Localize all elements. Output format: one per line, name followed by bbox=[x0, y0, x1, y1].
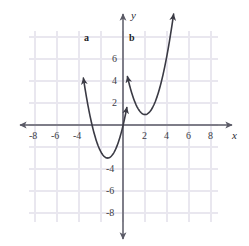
parabola-a-right-branch bbox=[108, 107, 127, 158]
x-axis-name: x bbox=[232, 130, 237, 141]
y-tick-label-pos6: 6 bbox=[112, 54, 117, 64]
y-tick-label-neg4: -4 bbox=[106, 164, 114, 174]
x-tick-label-neg8: -8 bbox=[29, 131, 37, 141]
x-tick-label-pos8: 8 bbox=[208, 131, 213, 141]
parabola-a bbox=[83, 78, 107, 158]
y-tick-label-neg8: -8 bbox=[106, 208, 114, 218]
y-tick-label-pos2: 2 bbox=[112, 98, 117, 108]
y-tick-label-neg6: -6 bbox=[106, 186, 114, 196]
x-tick-label-pos6: 6 bbox=[186, 131, 191, 141]
axes bbox=[20, 14, 232, 239]
graph-figure: -8 -6 -4 2 4 6 8 6 4 2 -4 -6 -8 x y a b bbox=[0, 0, 249, 246]
curve-label-b: b bbox=[129, 33, 135, 43]
parabola-b bbox=[127, 77, 145, 115]
y-tick-label-pos4: 4 bbox=[112, 76, 117, 86]
x-tick-label-pos2: 2 bbox=[142, 131, 147, 141]
x-tick-label-pos4: 4 bbox=[164, 131, 169, 141]
y-axis-name: y bbox=[131, 10, 136, 21]
coordinate-plane-svg bbox=[0, 0, 249, 246]
curve-label-a: a bbox=[84, 33, 89, 43]
parabola-b-right-branch bbox=[145, 14, 174, 114]
x-tick-label-neg6: -6 bbox=[51, 131, 59, 141]
x-tick-label-neg4: -4 bbox=[73, 131, 81, 141]
